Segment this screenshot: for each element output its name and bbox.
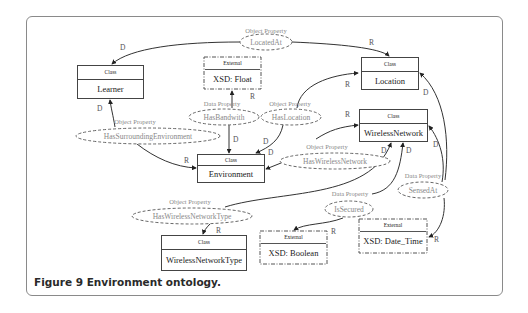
range-label: R (331, 227, 336, 236)
property-name-issecured: IsSecured (334, 205, 364, 214)
class-location: Class Location (361, 57, 419, 90)
property-name-haslocation: HasLocation (272, 113, 310, 122)
external-xsd-datetime: External XSD: Date_Time (360, 220, 426, 252)
edge-haswirelessnetwork-range (316, 125, 358, 139)
external-name: XSD: Boolean (261, 244, 326, 262)
range-label: R (369, 38, 374, 47)
range-label: R (216, 226, 221, 235)
property-name-haswirelessnetworktype: HasWirelessNetworkType (153, 212, 232, 221)
edge-sensedat-range (429, 198, 444, 237)
property-kind-haswirelessnetworktype: Object Property (169, 198, 210, 205)
figure-number: Figure 9 (34, 276, 83, 288)
property-name-hasbandwith: HasBandwith (204, 113, 245, 122)
class-header: Class (198, 155, 264, 166)
domain-label: D (233, 135, 238, 144)
domain-label: D (433, 140, 438, 149)
domain-label: D (263, 137, 268, 146)
class-wirelessnetworktype: Class WirelessNetworkType (161, 235, 247, 271)
class-header: Class (162, 236, 246, 250)
edge-haswirelessnetwork-domain (266, 163, 281, 169)
property-kind-haswirelessnetwork: Object Property (306, 143, 347, 150)
class-name: Learner (78, 80, 143, 98)
external-name: XSD: Float (205, 70, 260, 88)
property-name-haswirelessnetwork: HasWirelessNetwork (303, 157, 367, 166)
range-label: R (434, 235, 439, 244)
range-label: R (184, 156, 189, 165)
range-label: R (345, 110, 350, 119)
domain-label: D (381, 146, 386, 155)
domain-label: D (406, 146, 411, 155)
external-header: External (205, 58, 260, 70)
property-name-sensedat: SensedAt (409, 186, 438, 195)
property-kind-issecured: Data Property (332, 190, 368, 197)
domain-label: D (268, 148, 273, 157)
edge-locatedat-range (292, 42, 389, 56)
property-kind-hassurrounding: Object Property (114, 118, 155, 125)
class-environment: Class Environment (197, 154, 265, 183)
class-name: WirelessNetworkType (162, 250, 246, 271)
property-kind-haslocation: Object Property (269, 100, 310, 107)
property-kind-sensedat: Data Property (405, 172, 441, 179)
property-name-hassurrounding: HasSurroundingEnvironment (104, 132, 192, 141)
figure-title: Environment ontology. (83, 276, 221, 288)
domain-label: D (97, 104, 102, 113)
class-header: Class (362, 58, 418, 72)
external-header: External (261, 232, 326, 244)
edge-haswirelessnetworktype-range (203, 224, 210, 234)
class-name: Location (362, 72, 418, 90)
external-name: XSD: Date_Time (360, 232, 426, 250)
property-kind-locatedat: Object Property (245, 27, 286, 34)
class-header: Class (360, 110, 427, 124)
figure-caption: Figure 9 Environment ontology. (34, 276, 221, 288)
property-name-locatedat: LocatedAt (250, 38, 282, 47)
class-name: WirelessNetwork (360, 124, 427, 142)
class-name: Environment (198, 166, 264, 183)
domain-label: D (423, 88, 428, 97)
class-wirelessnetwork: Class WirelessNetwork (359, 109, 428, 142)
external-xsd-float: External XSD: Float (205, 58, 260, 88)
property-kind-hasbandwith: Data Property (204, 100, 240, 107)
external-xsd-boolean: External XSD: Boolean (261, 232, 326, 263)
domain-label: D (120, 43, 125, 52)
external-header: External (360, 220, 426, 232)
range-label: R (345, 80, 350, 89)
class-header: Class (78, 66, 143, 80)
range-label: R (250, 92, 255, 101)
class-learner: Class Learner (77, 65, 144, 99)
